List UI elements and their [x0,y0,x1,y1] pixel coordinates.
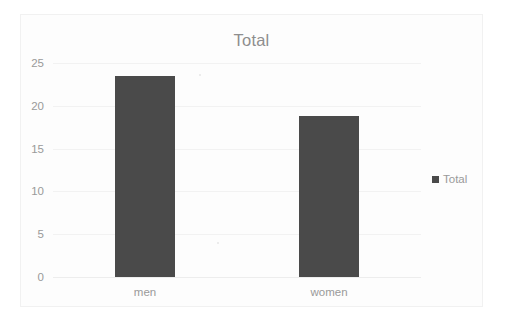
legend-label-total: Total [443,173,467,185]
bar-group-men: men [53,63,237,277]
chart-frame: Total 0510152025 menwomen Total [20,14,483,307]
scan-speckle [199,74,201,76]
chart-legend: Total [432,173,467,185]
bar-women[interactable] [299,116,359,277]
scanned-chart-page: Total 0510152025 menwomen Total [0,0,506,325]
y-axis-tick-label: 10 [31,185,44,197]
scan-speckle [217,242,219,244]
y-axis-tick-label: 25 [31,57,44,69]
y-axis-tick-label: 15 [31,143,44,155]
plot-area: 0510152025 menwomen [53,63,421,277]
bar-series: menwomen [53,63,421,277]
y-axis-tick-label: 20 [31,100,44,112]
legend-swatch-icon [432,176,439,183]
y-axis-tick-label: 5 [38,228,44,240]
bar-group-women: women [237,63,421,277]
chart-title: Total [21,31,482,50]
bar-men[interactable] [115,76,175,277]
x-axis-tick-label-women: women [310,286,347,298]
gridline-0 [53,277,421,278]
x-axis-tick-label-men: men [134,286,156,298]
y-axis-tick-label: 0 [38,271,44,283]
